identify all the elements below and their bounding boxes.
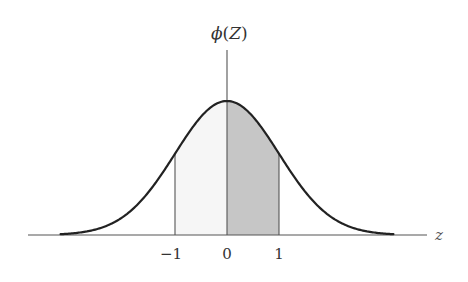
- x-tick-label-1: 1: [274, 247, 284, 262]
- y-axis-label-variable: Z: [229, 23, 241, 43]
- x-tick-label-0: 0: [222, 247, 232, 262]
- shaded-region-minus1-to-0: [175, 101, 227, 235]
- y-axis-label: ϕ(Z): [211, 25, 248, 42]
- x-axis-label: z: [435, 228, 443, 243]
- y-axis-label-function: ϕ: [211, 23, 223, 43]
- shaded-region-0-to-1: [227, 101, 279, 235]
- y-axis-label-close-paren: ): [241, 23, 248, 43]
- x-tick-label-minus-1: −1: [160, 247, 182, 262]
